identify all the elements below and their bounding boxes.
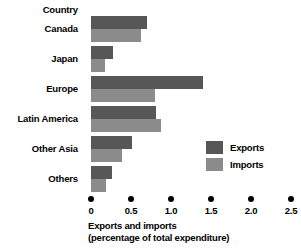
legend-swatch-imports [206, 158, 223, 171]
category-label-latin-america: Latin America [0, 114, 78, 124]
bar-imports-japan [91, 59, 105, 72]
x-axis-title-line2: (percentage of total expenditure) [88, 232, 298, 244]
bar-imports-latin-america [91, 119, 161, 132]
x-tick-label: 0.5 [117, 205, 145, 216]
x-axis: 00.51.01.52.02.5 [91, 196, 301, 222]
tick-dot-icon [288, 196, 294, 202]
bar-exports-japan [91, 46, 113, 59]
tick-dot-icon [128, 196, 134, 202]
tick-dot-icon [248, 196, 254, 202]
bar-exports-canada [91, 16, 147, 29]
bar-exports-latin-america [91, 106, 156, 119]
bar-imports-other-asia [91, 149, 122, 162]
bar-imports-europe [91, 89, 155, 102]
legend-swatch-exports [206, 141, 223, 154]
bar-exports-others [91, 166, 112, 179]
category-label-europe: Europe [0, 84, 78, 94]
x-tick-label: 2.0 [237, 205, 265, 216]
x-axis-title: Exports and imports (percentage of total… [88, 220, 298, 244]
x-tick-label: 0 [77, 205, 105, 216]
x-tick-label: 1.0 [157, 205, 185, 216]
bar-imports-canada [91, 29, 141, 42]
category-label-canada: Canada [0, 24, 78, 34]
tick-dot-icon [88, 196, 94, 202]
tick-dot-icon [168, 196, 174, 202]
bar-exports-other-asia [91, 136, 132, 149]
bar-exports-europe [91, 76, 203, 89]
bar-imports-others [91, 179, 106, 192]
x-tick-label: 1.5 [197, 205, 225, 216]
legend-label: Exports [230, 142, 264, 153]
category-label-japan: Japan [0, 54, 78, 64]
legend: ExportsImports [206, 141, 264, 175]
category-label-other-asia: Other Asia [0, 144, 78, 154]
x-tick-label: 2.5 [277, 205, 301, 216]
legend-item-imports: Imports [206, 158, 264, 171]
x-axis-title-line1: Exports and imports [88, 220, 298, 232]
tick-dot-icon [208, 196, 214, 202]
legend-label: Imports [230, 159, 263, 170]
legend-item-exports: Exports [206, 141, 264, 154]
category-axis-title: Country [0, 5, 78, 15]
bar-chart: CountryCanadaJapanEuropeLatin AmericaOth… [0, 0, 301, 252]
category-label-others: Others [0, 174, 78, 184]
